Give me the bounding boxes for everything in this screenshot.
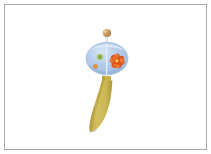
image-canvas: Japanese wind chime (furin) illustration… xyxy=(0,0,211,154)
green-dot xyxy=(96,53,103,60)
bead-body xyxy=(103,29,111,37)
wind-chime-illustration xyxy=(0,0,211,154)
orange-dot xyxy=(93,64,98,69)
rod-through-glass xyxy=(106,44,108,78)
top-bead xyxy=(103,29,111,37)
flower-center xyxy=(115,59,118,62)
bead-highlight xyxy=(104,31,107,33)
paper-strip xyxy=(89,81,112,133)
wind-chime-svg xyxy=(0,0,211,154)
green-dot-core xyxy=(98,55,103,60)
